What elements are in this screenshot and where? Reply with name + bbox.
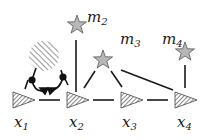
label-m2: m2 bbox=[87, 8, 108, 27]
label-m4: m4 bbox=[162, 30, 183, 49]
node-m3-star bbox=[94, 50, 113, 68]
robot-arms-icon bbox=[25, 68, 68, 94]
label-x3: x3 bbox=[122, 113, 137, 132]
edge-m3-x2 bbox=[84, 71, 95, 88]
obstacle-circle bbox=[29, 41, 59, 71]
label-x4: x4 bbox=[177, 113, 192, 132]
graph-diagram: x1 x2 x3 x4 m2 m3 m4 bbox=[0, 0, 212, 140]
node-m2-star bbox=[68, 15, 87, 33]
edge-m3-x3 bbox=[111, 71, 122, 87]
node-x1-triangle bbox=[13, 92, 35, 108]
node-x4-triangle bbox=[175, 92, 197, 108]
label-x1: x1 bbox=[14, 113, 29, 132]
label-x2: x2 bbox=[69, 113, 84, 132]
edges bbox=[39, 40, 185, 100]
label-m3: m3 bbox=[120, 30, 141, 49]
edge-m3-x4 bbox=[121, 70, 173, 90]
node-x2-triangle bbox=[67, 92, 89, 108]
node-x3-triangle bbox=[121, 92, 143, 108]
